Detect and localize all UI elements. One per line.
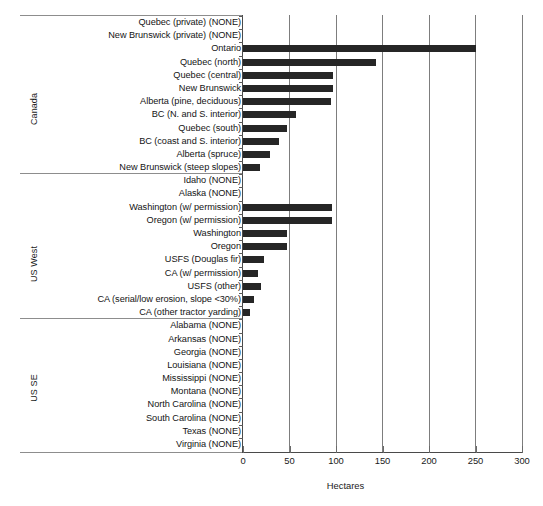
chart-row: Alabama (NONE) <box>0 319 543 332</box>
category-tick <box>239 267 243 268</box>
category-label: USFS (other) <box>187 280 241 293</box>
category-label: Alabama (NONE) <box>170 319 241 332</box>
category-tick <box>239 280 243 281</box>
category-label: Alberta (spruce) <box>176 148 241 161</box>
category-tick <box>239 201 243 202</box>
chart-row: New Brunswick (steep slopes) <box>0 161 543 174</box>
category-tick <box>239 372 243 373</box>
category-tick <box>239 69 243 70</box>
chart-row: Texas (NONE) <box>0 425 543 438</box>
chart-row: USFS (Douglas fir) <box>0 253 543 266</box>
group-separator-bottom <box>20 452 243 453</box>
x-axis-title: Hectares <box>0 480 543 491</box>
chart-row: Montana (NONE) <box>0 385 543 398</box>
chart-row: Ontario <box>0 42 543 55</box>
bar <box>243 217 332 224</box>
category-tick <box>239 438 243 439</box>
category-label: CA (w/ permission) <box>165 267 241 280</box>
chart-row: CA (other tractor yarding) <box>0 306 543 319</box>
chart-row: Idaho (NONE) <box>0 174 543 187</box>
category-label: Quebec (private) (NONE) <box>139 16 242 29</box>
category-label: New Brunswick <box>179 82 241 95</box>
x-tick <box>476 446 477 453</box>
chart-row: Quebec (north) <box>0 56 543 69</box>
category-tick <box>239 319 243 320</box>
category-label: CA (other tractor yarding) <box>139 306 241 319</box>
category-label: Georgia (NONE) <box>174 346 241 359</box>
category-label: Quebec (south) <box>178 122 241 135</box>
chart-row: Louisiana (NONE) <box>0 359 543 372</box>
chart-row: Mississippi (NONE) <box>0 372 543 385</box>
x-tick-label: 100 <box>328 455 344 466</box>
chart-row: BC (N. and S. interior) <box>0 108 543 121</box>
category-label: Washington (w/ permission) <box>129 201 241 214</box>
x-tick <box>336 446 337 453</box>
x-tick <box>522 446 523 453</box>
category-tick <box>239 108 243 109</box>
category-label: Quebec (central) <box>173 69 241 82</box>
bar <box>243 125 287 132</box>
category-label: New Brunswick (private) (NONE) <box>108 29 241 42</box>
bar <box>243 138 279 145</box>
chart-row: New Brunswick <box>0 82 543 95</box>
chart-row: Virginia (NONE) <box>0 438 543 451</box>
category-label: Louisiana (NONE) <box>167 359 241 372</box>
category-tick <box>239 122 243 123</box>
category-label: South Carolina (NONE) <box>146 412 241 425</box>
category-tick <box>239 82 243 83</box>
chart-row: Alberta (spruce) <box>0 148 543 161</box>
chart-row: North Carolina (NONE) <box>0 398 543 411</box>
x-tick-label: 0 <box>240 455 245 466</box>
chart-row: Oregon <box>0 240 543 253</box>
x-tick-label: 150 <box>375 455 391 466</box>
category-tick <box>239 385 243 386</box>
category-label: Mississippi (NONE) <box>162 372 241 385</box>
category-tick <box>239 398 243 399</box>
category-tick <box>239 16 243 17</box>
category-tick <box>239 42 243 43</box>
bar <box>243 111 296 118</box>
chart-row: Washington <box>0 227 543 240</box>
category-label: Washington <box>193 227 241 240</box>
category-tick <box>239 359 243 360</box>
category-tick <box>239 240 243 241</box>
category-tick <box>239 333 243 334</box>
x-tick-label: 200 <box>421 455 437 466</box>
category-tick <box>239 135 243 136</box>
category-label: Ontario <box>211 42 241 55</box>
category-label: New Brunswick (steep slopes) <box>119 161 241 174</box>
category-tick <box>239 148 243 149</box>
category-tick <box>239 346 243 347</box>
bar <box>243 256 264 263</box>
chart-row: Quebec (private) (NONE) <box>0 16 543 29</box>
category-label: CA (serial/low erosion, slope <30%) <box>97 293 241 306</box>
category-tick <box>239 293 243 294</box>
category-tick <box>239 95 243 96</box>
bar <box>243 270 258 277</box>
bar <box>243 59 376 66</box>
category-tick <box>239 161 243 162</box>
category-tick <box>239 187 243 188</box>
chart-row: Alberta (pine, deciduous) <box>0 95 543 108</box>
category-label: Alaska (NONE) <box>179 187 241 200</box>
chart-row: Alaska (NONE) <box>0 187 543 200</box>
chart-row: New Brunswick (private) (NONE) <box>0 29 543 42</box>
category-tick <box>239 56 243 57</box>
x-tick-label: 300 <box>514 455 530 466</box>
category-label: USFS (Douglas fir) <box>165 253 241 266</box>
bar <box>243 204 332 211</box>
chart-row: USFS (other) <box>0 280 543 293</box>
category-tick <box>239 214 243 215</box>
chart-row: Quebec (south) <box>0 122 543 135</box>
category-label: Idaho (NONE) <box>183 174 241 187</box>
category-tick <box>239 29 243 30</box>
category-label: North Carolina (NONE) <box>148 398 241 411</box>
category-label: Quebec (north) <box>180 56 241 69</box>
bar <box>243 45 476 52</box>
bar <box>243 283 261 290</box>
bar <box>243 164 260 171</box>
category-tick <box>239 306 243 307</box>
chart-row: BC (coast and S. interior) <box>0 135 543 148</box>
category-tick <box>239 174 243 175</box>
x-tick <box>429 446 430 453</box>
